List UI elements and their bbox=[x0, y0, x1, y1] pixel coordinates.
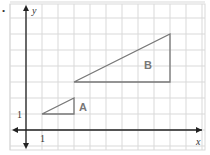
bullet: • bbox=[2, 6, 5, 16]
triangle-label-a: A bbox=[79, 101, 87, 113]
coordinate-plane: AB • y x 1 1 bbox=[0, 0, 210, 155]
x-axis-label: x bbox=[195, 136, 201, 147]
x-tick-label: 1 bbox=[40, 133, 45, 144]
grid-lines bbox=[10, 2, 205, 150]
y-axis-label: y bbox=[31, 5, 37, 16]
y-tick-label: 1 bbox=[17, 109, 22, 120]
axes bbox=[12, 5, 202, 149]
triangle-label-b: B bbox=[144, 59, 152, 71]
